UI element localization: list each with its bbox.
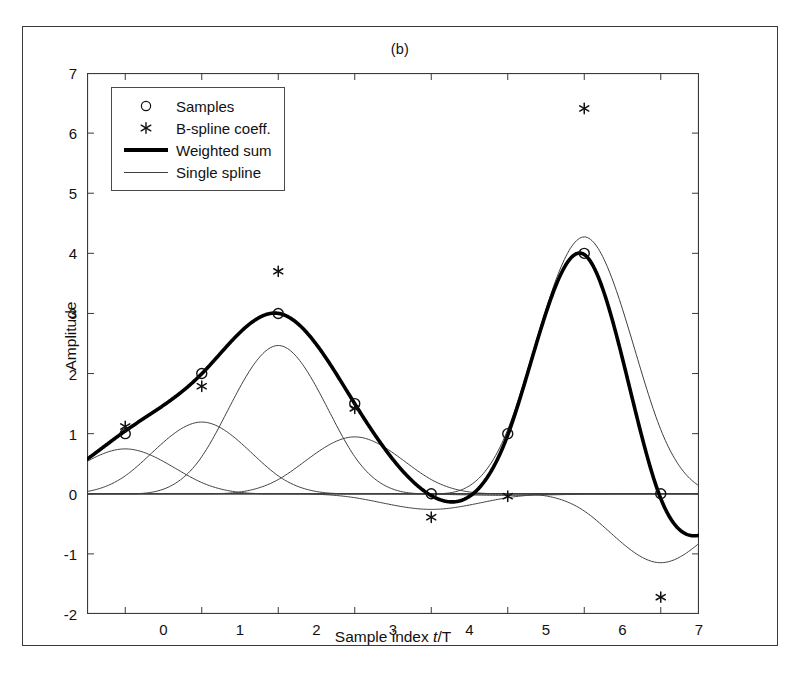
figure-title: (b): [23, 41, 777, 57]
legend-item-samples: Samples: [120, 95, 272, 117]
legend: Samples B-spline coeff.: [111, 87, 285, 191]
legend-item-single-spline: Single spline: [120, 161, 272, 183]
legend-label: Samples: [172, 98, 234, 115]
y-tick-label: -2: [41, 606, 77, 623]
figure-frame: (b) Amplitude Sample index t/T 7 6 5 4 3…: [22, 26, 778, 646]
plot-area: Samples B-spline coeff.: [87, 73, 699, 614]
y-tick-label: 6: [45, 125, 77, 142]
asterisk-marker: [197, 381, 206, 391]
x-tick-label: 5: [542, 621, 550, 638]
y-tick-label: 5: [45, 185, 77, 202]
thick-line-swatch: [120, 148, 172, 152]
legend-item-weighted-sum: Weighted sum: [120, 139, 272, 161]
single-spline-curves: [87, 237, 699, 563]
x-tick-label: 3: [389, 621, 397, 638]
x-tick-label: 4: [465, 621, 473, 638]
single-spline-curve: [87, 494, 699, 510]
asterisk-marker: [274, 266, 283, 276]
x-tick-label: 2: [312, 621, 320, 638]
y-tick-label: 4: [45, 245, 77, 262]
y-tick-label: 1: [45, 425, 77, 442]
y-tick-label: 3: [45, 305, 77, 322]
single-spline-curve: [87, 346, 699, 494]
y-tick-label: 7: [45, 65, 77, 82]
y-tick-label: -1: [41, 545, 77, 562]
single-spline-curve: [87, 449, 699, 494]
y-tick-label: 0: [45, 485, 77, 502]
legend-item-bspline-coeff: B-spline coeff.: [120, 117, 272, 139]
asterisk-marker-icon: [120, 121, 172, 135]
legend-label: Weighted sum: [172, 142, 272, 159]
asterisk-marker: [580, 103, 589, 113]
x-axis-title-suffix: /T: [437, 628, 451, 645]
asterisk-marker: [427, 512, 436, 522]
single-spline-curve: [87, 437, 699, 494]
y-tick-label: 2: [45, 365, 77, 382]
single-spline-curve: [87, 494, 699, 563]
x-tick-label: 0: [159, 621, 167, 638]
asterisk-marker: [656, 592, 665, 602]
x-tick-label: 1: [236, 621, 244, 638]
x-axis-title-prefix: Sample index: [335, 628, 433, 645]
circle-marker-icon: [120, 99, 172, 113]
single-spline-curve: [87, 237, 699, 494]
thin-line-swatch: [120, 172, 172, 173]
x-tick-label: 6: [618, 621, 626, 638]
legend-label: B-spline coeff.: [172, 120, 271, 137]
asterisk-marker: [503, 491, 512, 501]
x-tick-label: 7: [695, 621, 703, 638]
legend-label: Single spline: [172, 164, 261, 181]
